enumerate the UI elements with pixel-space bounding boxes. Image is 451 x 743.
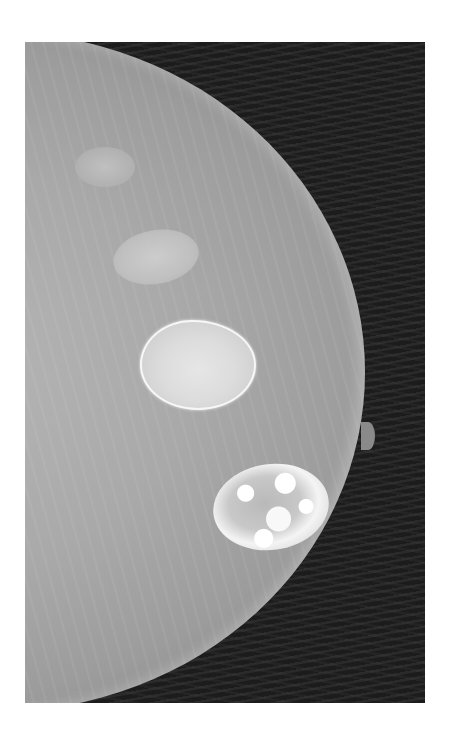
calcified-mass-middle	[140, 320, 256, 410]
nipple-contour	[361, 422, 375, 450]
faint-opacity	[75, 147, 135, 187]
mammogram-image	[25, 42, 425, 703]
